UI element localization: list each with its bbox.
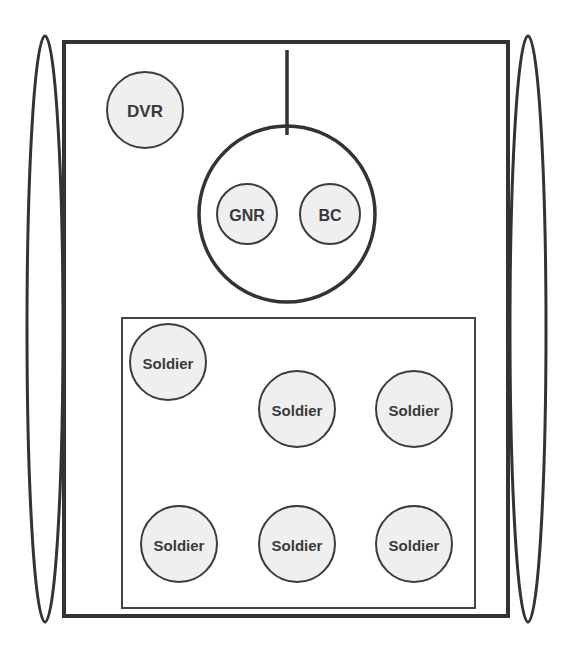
turret-crew-seat-gnr-label: GNR	[229, 207, 265, 224]
driver-seat: DVR	[107, 72, 183, 148]
soldier-seat: Soldier	[376, 371, 452, 447]
soldier-seat-label: Soldier	[272, 402, 323, 419]
right-track	[510, 36, 546, 622]
soldier-seat: Soldier	[130, 324, 206, 400]
soldier-seat-label: Soldier	[389, 402, 440, 419]
crew-seats: DVRGNRBCSoldierSoldierSoldierSoldierSold…	[107, 72, 452, 582]
soldier-seat-label: Soldier	[143, 355, 194, 372]
soldier-seat: Soldier	[376, 506, 452, 582]
turret-crew-seat-bc-label: BC	[318, 207, 342, 224]
turret-crew-seat-bc: BC	[300, 184, 360, 244]
soldier-seat-label: Soldier	[389, 537, 440, 554]
soldier-seat: Soldier	[259, 506, 335, 582]
soldier-seat-label: Soldier	[272, 537, 323, 554]
vehicle-diagram: DVRGNRBCSoldierSoldierSoldierSoldierSold…	[0, 0, 572, 650]
left-track	[27, 36, 63, 622]
soldier-seat: Soldier	[259, 371, 335, 447]
driver-seat-label: DVR	[127, 102, 163, 121]
soldier-seat-label: Soldier	[154, 537, 205, 554]
soldier-seat: Soldier	[141, 506, 217, 582]
turret-crew-seat-gnr: GNR	[217, 184, 277, 244]
